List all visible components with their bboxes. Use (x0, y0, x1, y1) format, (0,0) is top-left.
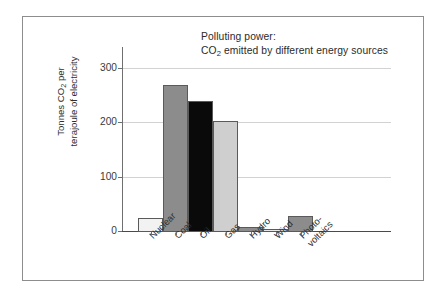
x-axis-labels: NuclearCoalOilGasHydroWindPhoto-voltaics (138, 233, 338, 281)
y-axis-title-post: per (55, 67, 66, 84)
x-tick-mark (276, 232, 277, 235)
y-axis-title-pre: Tonnes CO (55, 88, 66, 136)
y-axis-line (122, 47, 123, 232)
y-tick-mark (118, 68, 122, 69)
x-tick-mark (151, 232, 152, 235)
x-tick-mark (201, 232, 202, 235)
bar-coal (163, 85, 188, 232)
y-tick-mark (118, 231, 122, 232)
x-tick-mark (226, 232, 227, 235)
bar-gas (213, 121, 238, 232)
y-axis-title-line1: Tonnes CO2 per (55, 22, 68, 182)
bar-oil (188, 101, 213, 232)
y-tick-label: 0 (87, 225, 117, 236)
x-tick-mark (176, 232, 177, 235)
y-tick-label: 200 (87, 116, 117, 127)
x-tick-mark (301, 232, 302, 235)
y-tick-mark (118, 122, 122, 123)
y-axis-title: Tonnes CO2 per terajoule of electricity (55, 22, 80, 182)
y-tick-label: 300 (87, 62, 117, 73)
bars-layer (138, 47, 313, 232)
y-axis-title-subscript: 2 (59, 84, 68, 88)
y-tick-mark (118, 177, 122, 178)
y-axis-title-line2: terajoule of electricity (68, 22, 80, 182)
bar-chart: Polluting power: CO2 emitted by differen… (23, 17, 425, 282)
chart-title: Polluting power: (201, 30, 416, 44)
x-tick-mark (251, 232, 252, 235)
figure-frame: Polluting power: CO2 emitted by differen… (22, 16, 424, 281)
y-tick-label: 100 (87, 171, 117, 182)
y-tick-labels: 0100200300 (85, 47, 117, 232)
